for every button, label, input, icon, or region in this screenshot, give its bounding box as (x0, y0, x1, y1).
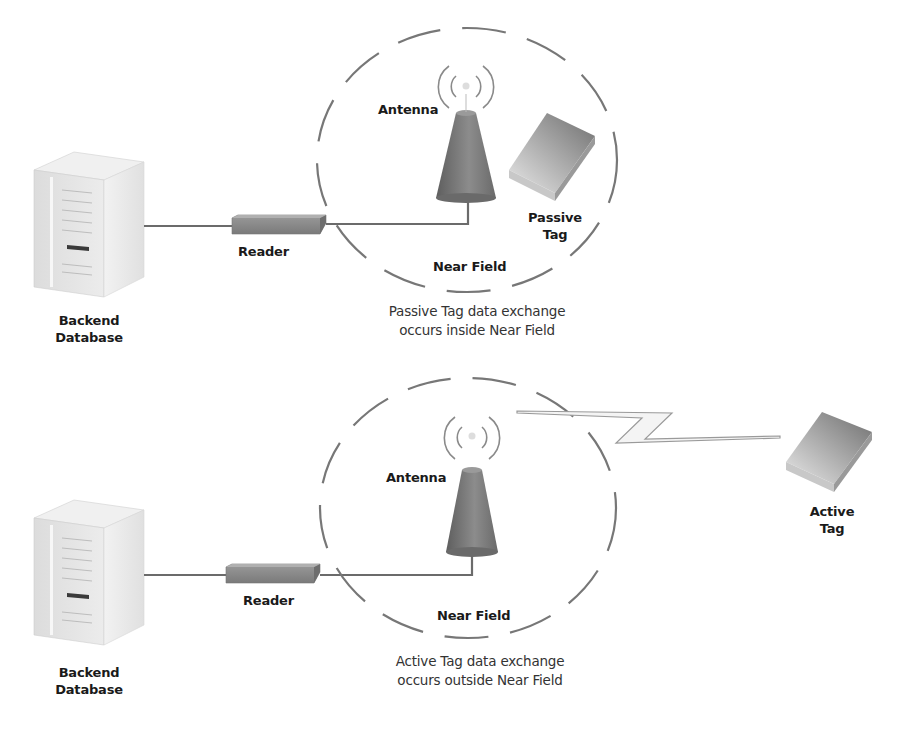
backend-database-label-line1: Backend (44, 312, 134, 329)
active-caption-line2: occurs outside Near Field (330, 671, 630, 690)
reader-device-icon (232, 215, 326, 234)
backend-database-label: Backend Database (44, 312, 134, 346)
antenna-icon (436, 83, 496, 204)
backend-database-server-icon (34, 152, 144, 297)
antenna-label: Antenna (378, 101, 438, 118)
active-diagram (34, 378, 872, 645)
reader-label: Reader (243, 592, 294, 609)
passive-caption: Passive Tag data exchange occurs inside … (327, 302, 627, 340)
passive-tag-label-line2: Tag (525, 226, 585, 243)
backend-database-label-line2: Database (44, 681, 134, 698)
wireless-link-bolt-icon (517, 411, 780, 443)
backend-database-label-line2: Database (44, 329, 134, 346)
active-caption: Active Tag data exchange occurs outside … (330, 652, 630, 690)
active-tag-label: Active Tag (797, 503, 867, 537)
backend-database-label: Backend Database (44, 664, 134, 698)
passive-tag-label-line1: Passive (525, 209, 585, 226)
active-tag-icon (786, 412, 872, 492)
antenna-label: Antenna (386, 469, 446, 486)
near-field-label: Near Field (437, 607, 510, 624)
passive-tag-icon (509, 113, 595, 201)
cable (326, 200, 468, 224)
passive-caption-line2: occurs inside Near Field (327, 321, 627, 340)
backend-database-label-line1: Backend (44, 664, 134, 681)
active-tag-label-line1: Active (797, 503, 867, 520)
backend-database-server-icon (34, 500, 144, 645)
cable (320, 553, 472, 575)
reader-label: Reader (238, 243, 289, 260)
active-tag-label-line2: Tag (797, 520, 867, 537)
active-caption-line1: Active Tag data exchange (330, 652, 630, 671)
antenna-icon (446, 433, 498, 558)
reader-device-icon (226, 564, 320, 583)
near-field-label: Near Field (433, 258, 506, 275)
passive-caption-line1: Passive Tag data exchange (327, 302, 627, 321)
passive-diagram (34, 28, 617, 297)
passive-tag-label: Passive Tag (525, 209, 585, 243)
